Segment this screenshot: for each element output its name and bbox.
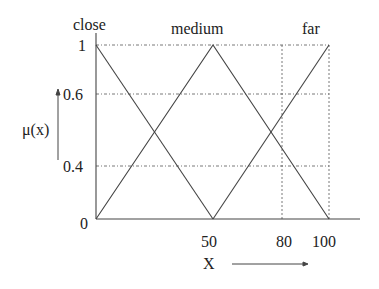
label-far: far: [302, 21, 320, 37]
y-tick-0.4: 0.4: [63, 159, 83, 175]
x-tick-100: 100: [312, 234, 336, 250]
x-axis-label: X: [203, 256, 215, 272]
y-axis-label: μ(x): [22, 122, 49, 138]
y-tick-0: 0: [80, 216, 88, 232]
series-medium: [96, 45, 329, 219]
x-arrow-head-icon: [303, 262, 308, 266]
y-tick-0.6: 0.6: [63, 87, 83, 103]
label-close: close: [73, 17, 106, 33]
y-arrow-head-icon: [56, 89, 60, 95]
x-tick-50: 50: [201, 234, 217, 250]
y-tick-1: 1: [78, 38, 86, 54]
label-medium: medium: [171, 21, 223, 37]
x-tick-80: 80: [276, 234, 292, 250]
